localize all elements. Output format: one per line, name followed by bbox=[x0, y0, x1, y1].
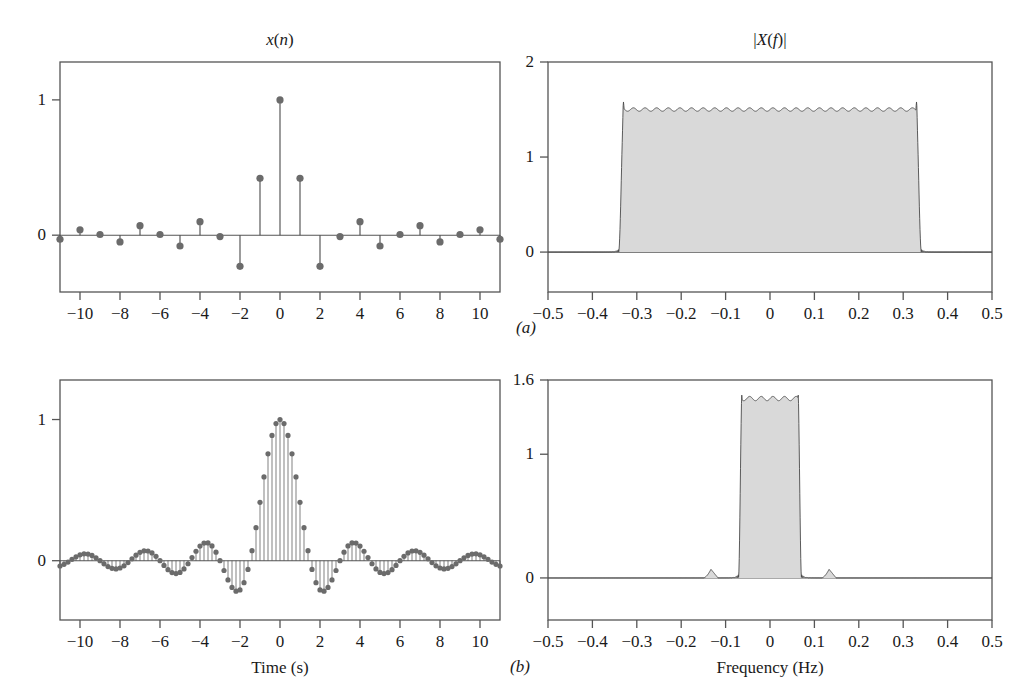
stem-marker bbox=[316, 263, 323, 270]
stem-marker bbox=[241, 580, 246, 585]
stem-marker bbox=[341, 550, 346, 555]
x-tick-label: 0.1 bbox=[804, 304, 825, 324]
stem-marker bbox=[437, 565, 442, 570]
stem-marker bbox=[365, 555, 370, 560]
x-tick-label: 8 bbox=[436, 632, 445, 652]
stem-marker bbox=[201, 540, 206, 545]
panel-letter: (a) bbox=[516, 318, 536, 338]
x-tick-label: 0.4 bbox=[937, 304, 958, 324]
stem-marker bbox=[56, 236, 63, 243]
x-axis-label: Frequency (Hz) bbox=[548, 658, 992, 678]
stem-marker bbox=[176, 242, 183, 249]
stem-marker bbox=[276, 96, 283, 103]
stem-marker bbox=[245, 567, 250, 572]
x-tick-label: −0.4 bbox=[577, 304, 608, 324]
stem-marker bbox=[125, 560, 130, 565]
stem-marker bbox=[269, 433, 274, 438]
stem-marker bbox=[141, 548, 146, 553]
x-tick-label: −6 bbox=[151, 632, 169, 652]
x-tick-label: 2 bbox=[316, 632, 325, 652]
spectrum-series bbox=[548, 395, 992, 578]
stem-marker bbox=[233, 589, 238, 594]
plot-canvas-bottom-left bbox=[0, 0, 1030, 700]
stem-marker bbox=[145, 548, 150, 553]
stem-marker bbox=[296, 175, 303, 182]
stem-marker bbox=[436, 238, 443, 245]
stem-marker bbox=[57, 563, 62, 568]
x-tick-label: −0.3 bbox=[621, 632, 652, 652]
stem-marker bbox=[113, 566, 118, 571]
stem-marker bbox=[376, 242, 383, 249]
stem-marker bbox=[96, 231, 103, 238]
stem-marker bbox=[285, 433, 290, 438]
stem-marker bbox=[77, 552, 82, 557]
stem-marker bbox=[229, 585, 234, 590]
stem-marker bbox=[336, 233, 343, 240]
stem-marker bbox=[429, 560, 434, 565]
x-tick-label: −10 bbox=[67, 304, 94, 324]
stem-marker bbox=[256, 175, 263, 182]
stem-marker bbox=[309, 567, 314, 572]
x-tick-label: 2 bbox=[316, 304, 325, 324]
y-tick-label: 0 bbox=[0, 551, 46, 571]
stem-marker bbox=[317, 587, 322, 592]
x-tick-label: 0.2 bbox=[848, 304, 869, 324]
x-tick-label: −2 bbox=[231, 632, 249, 652]
stem-marker bbox=[313, 580, 318, 585]
x-tick-label: −8 bbox=[111, 304, 129, 324]
stem-marker bbox=[396, 231, 403, 238]
stem-marker bbox=[409, 548, 414, 553]
stem-marker bbox=[69, 557, 74, 562]
stem-marker bbox=[476, 226, 483, 233]
stem-marker bbox=[149, 550, 154, 555]
stem-marker bbox=[76, 226, 83, 233]
stem-marker bbox=[216, 233, 223, 240]
stem-marker bbox=[453, 561, 458, 566]
panel-letter: (b) bbox=[510, 657, 530, 677]
plot-frame bbox=[548, 380, 992, 620]
stem-marker bbox=[129, 556, 134, 561]
x-tick-label: 10 bbox=[472, 304, 489, 324]
x-tick-label: 6 bbox=[396, 632, 405, 652]
stem-marker bbox=[156, 231, 163, 238]
stem-marker bbox=[477, 552, 482, 557]
x-tick-label: 0.3 bbox=[893, 632, 914, 652]
stem-marker bbox=[209, 543, 214, 548]
x-tick-label: −2 bbox=[231, 304, 249, 324]
y-tick-label: 1 bbox=[0, 410, 46, 430]
x-tick-label: 6 bbox=[396, 304, 405, 324]
x-axis-label: Time (s) bbox=[60, 658, 500, 678]
stem-marker bbox=[489, 559, 494, 564]
stem-marker bbox=[177, 570, 182, 575]
stem-marker bbox=[373, 566, 378, 571]
stem-marker bbox=[421, 553, 426, 558]
spectrum-outline bbox=[548, 395, 992, 578]
x-tick-label: −0.1 bbox=[710, 632, 741, 652]
x-tick-label: −4 bbox=[191, 304, 209, 324]
stem-marker bbox=[393, 563, 398, 568]
stem-marker bbox=[397, 558, 402, 563]
x-tick-label: 4 bbox=[356, 304, 365, 324]
x-tick-label: −8 bbox=[111, 632, 129, 652]
stem-marker bbox=[137, 550, 142, 555]
stem-marker bbox=[289, 451, 294, 456]
spectrum-outline bbox=[548, 102, 992, 252]
stem-marker bbox=[169, 570, 174, 575]
stem-marker bbox=[185, 561, 190, 566]
stem-marker bbox=[417, 550, 422, 555]
stem-marker bbox=[349, 540, 354, 545]
stem-marker bbox=[217, 558, 222, 563]
stem-marker bbox=[97, 558, 102, 563]
x-tick-label: 0.3 bbox=[893, 304, 914, 324]
stem-marker bbox=[353, 540, 358, 545]
stem-marker bbox=[356, 218, 363, 225]
x-tick-label: −0.2 bbox=[666, 632, 697, 652]
x-tick-label: −0.5 bbox=[533, 304, 564, 324]
stem-marker bbox=[173, 571, 178, 576]
stem-marker bbox=[181, 566, 186, 571]
x-tick-label: −6 bbox=[151, 304, 169, 324]
x-tick-label: −0.1 bbox=[710, 304, 741, 324]
stem-marker bbox=[109, 566, 114, 571]
x-tick-label: 0.5 bbox=[981, 304, 1002, 324]
stem-marker bbox=[369, 561, 374, 566]
